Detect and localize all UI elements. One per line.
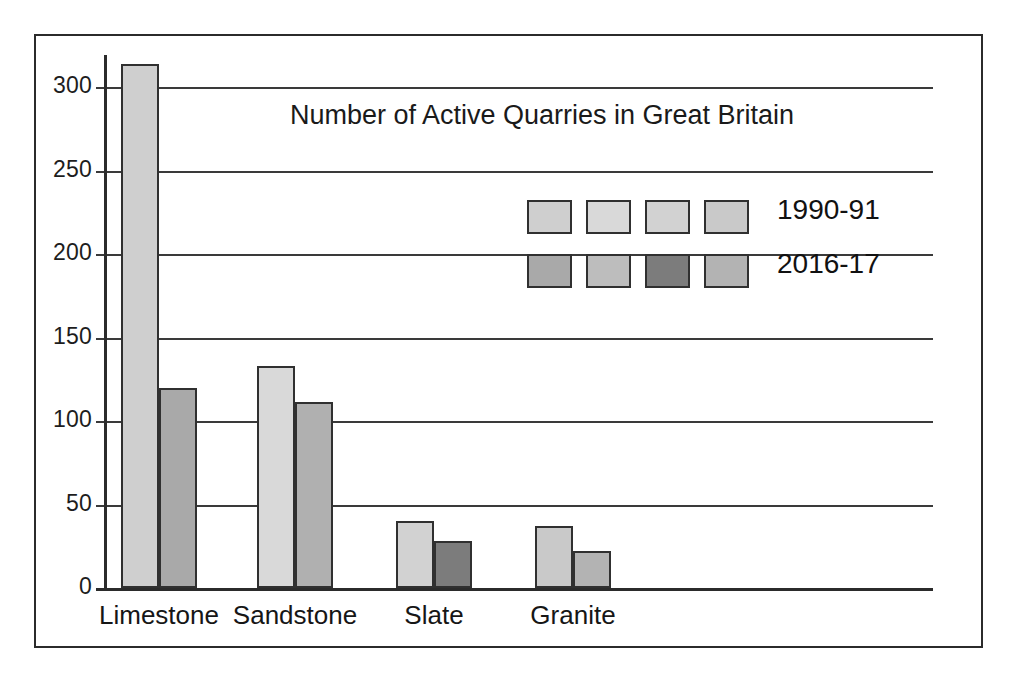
bar-sandstone-2016-17 xyxy=(295,402,333,588)
ytick-label-50: 50 xyxy=(6,490,92,517)
bar-granite-1990-91 xyxy=(535,526,573,588)
legend-swatch-granite-1990-91 xyxy=(704,200,749,234)
legend-swatch-slate-1990-91 xyxy=(645,200,690,234)
bar-granite-2016-17 xyxy=(573,551,611,588)
legend-swatch-granite-2016-17 xyxy=(704,254,749,288)
gridline-300 xyxy=(106,87,933,89)
chart-page: 300 250 200 150 100 50 0 xyxy=(0,0,1010,684)
legend-label-1990-91: 1990-91 xyxy=(777,194,880,226)
legend-swatch-limestone-1990-91 xyxy=(527,200,572,234)
gridline-100 xyxy=(106,421,933,423)
bar-slate-1990-91 xyxy=(396,521,434,588)
bar-limestone-1990-91 xyxy=(121,64,159,588)
legend-row-1990-91: 1990-91 xyxy=(527,194,907,248)
chart-legend: 1990-91 2016-17 xyxy=(527,194,907,302)
category-label-granite: Granite xyxy=(473,600,673,631)
bar-chart-plot: 300 250 200 150 100 50 0 xyxy=(0,0,1010,684)
legend-swatch-slate-2016-17 xyxy=(645,254,690,288)
legend-swatches-2016-17 xyxy=(527,254,749,288)
ytick-label-200: 200 xyxy=(6,239,92,266)
legend-swatch-sandstone-1990-91 xyxy=(586,200,631,234)
ytick-label-300: 300 xyxy=(6,72,92,99)
ytick-label-150: 150 xyxy=(6,323,92,350)
bar-limestone-2016-17 xyxy=(159,388,197,588)
ytick-label-100: 100 xyxy=(6,406,92,433)
legend-swatch-limestone-2016-17 xyxy=(527,254,572,288)
chart-title: Number of Active Quarries in Great Brita… xyxy=(232,100,852,131)
legend-row-2016-17: 2016-17 xyxy=(527,248,907,302)
gridline-50 xyxy=(106,505,933,507)
legend-swatch-sandstone-2016-17 xyxy=(586,254,631,288)
bar-sandstone-1990-91 xyxy=(257,366,295,588)
x-axis-baseline xyxy=(96,588,933,591)
bar-slate-2016-17 xyxy=(434,541,472,588)
gridline-150 xyxy=(106,338,933,340)
y-axis-line xyxy=(104,55,107,590)
legend-swatches-1990-91 xyxy=(527,200,749,234)
ytick-label-0: 0 xyxy=(6,573,92,600)
legend-label-2016-17: 2016-17 xyxy=(777,248,880,280)
ytick-label-250: 250 xyxy=(6,156,92,183)
gridline-250 xyxy=(106,171,933,173)
